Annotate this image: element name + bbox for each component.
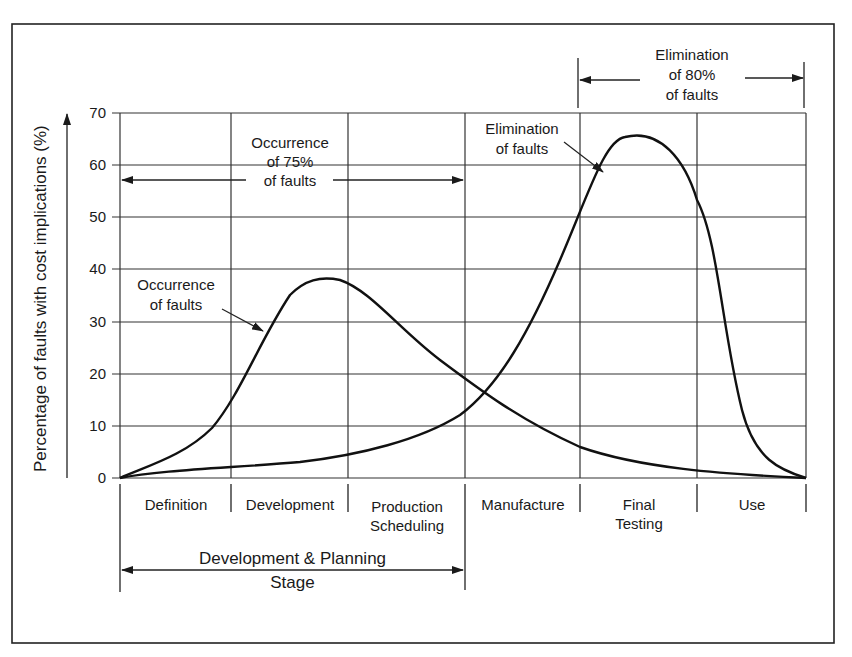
stage-final-line1: Final <box>582 496 696 514</box>
elim80-label-line2: of 80% <box>640 66 744 84</box>
elim80-label-line1: Elimination <box>640 46 744 64</box>
elim80-label-line3: of faults <box>640 86 744 104</box>
occurrence-curve-label-line1: Occurrence <box>128 276 224 294</box>
elimination-curve-label-line1: Elimination <box>474 120 570 138</box>
occ75-label-line2: of 75% <box>240 153 340 171</box>
occ75-label-line1: Occurrence <box>240 134 340 152</box>
y-tick-20: 20 <box>80 365 106 382</box>
stage-span-label-line1: Development & Planning <box>120 548 465 570</box>
stage-manufacture: Manufacture <box>466 496 580 514</box>
occurrence-pointer-arrow <box>222 309 263 331</box>
y-tick-70: 70 <box>80 104 106 121</box>
y-tick-10: 10 <box>80 417 106 434</box>
y-tick-40: 40 <box>80 260 106 277</box>
stage-final-line2: Testing <box>582 515 696 533</box>
y-tick-30: 30 <box>80 313 106 330</box>
y-axis-label: Percentage of faults with cost implicati… <box>31 125 51 472</box>
occ75-label-line3: of faults <box>240 172 340 190</box>
y-tick-50: 50 <box>80 208 106 225</box>
stage-production-line1: Production <box>350 498 464 516</box>
stage-definition: Definition <box>122 496 230 514</box>
occurrence-curve-label-line2: of faults <box>128 296 224 314</box>
elimination-curve-label-line2: of faults <box>474 140 570 158</box>
y-tick-0: 0 <box>80 469 106 486</box>
stage-production-line2: Scheduling <box>350 517 464 535</box>
y-tick-60: 60 <box>80 156 106 173</box>
stage-use: Use <box>699 496 805 514</box>
stage-span-label-line2: Stage <box>120 572 465 594</box>
stage-development: Development <box>233 496 347 514</box>
